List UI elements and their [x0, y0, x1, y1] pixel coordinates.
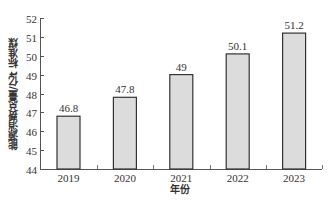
bar-value-label: 46.8: [59, 102, 79, 114]
bar-rect: [283, 33, 306, 169]
y-tick-label: 44: [26, 164, 38, 176]
bars: 46.8201947.8202049202150.1202251.22023: [57, 19, 306, 184]
y-tick-label: 48: [26, 89, 38, 101]
bar-value-label: 50.1: [228, 40, 247, 52]
bar-2023: 51.22023: [283, 19, 306, 184]
bar-value-label: 49: [176, 61, 188, 73]
y-tick-label: 51: [26, 32, 37, 44]
y-tick-label: 49: [26, 70, 38, 82]
x-tick-label: 2019: [58, 172, 81, 184]
x-tick-label: 2020: [114, 172, 137, 184]
bar-rect: [170, 75, 193, 169]
bar-rect: [226, 54, 249, 169]
bar-rect: [57, 116, 80, 169]
bar-chart: 444546474849505152 46.8201947.8202049202…: [0, 0, 333, 206]
bar-2019: 46.82019: [57, 102, 80, 184]
x-axis-label: 年份: [150, 181, 210, 196]
y-axis-label: 能源消费总量/亿t 标准煤: [6, 18, 20, 169]
y-axis-label-text: 能源消费总量/亿t 标准煤: [6, 38, 21, 150]
y-tick-label: 47: [26, 107, 38, 119]
y-tick-label: 50: [26, 51, 38, 63]
x-tick-label: 2023: [283, 172, 306, 184]
bar-value-label: 51.2: [284, 19, 303, 31]
bar-2021: 492021: [170, 61, 193, 184]
y-tick-label: 46: [26, 126, 38, 138]
y-tick-label: 52: [26, 13, 37, 25]
x-tick-label: 2022: [227, 172, 249, 184]
y-ticks: 444546474849505152: [26, 13, 44, 176]
y-tick-label: 45: [26, 145, 38, 157]
bar-value-label: 47.8: [115, 83, 135, 95]
bar-rect: [113, 97, 136, 169]
bar-2022: 50.12022: [226, 40, 249, 184]
bar-2020: 47.82020: [113, 83, 136, 184]
